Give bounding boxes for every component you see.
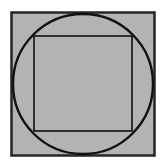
geometry-diagram bbox=[0, 0, 163, 166]
geometric-figure-container: Square with inscribed circle and inscrib… bbox=[0, 0, 163, 166]
